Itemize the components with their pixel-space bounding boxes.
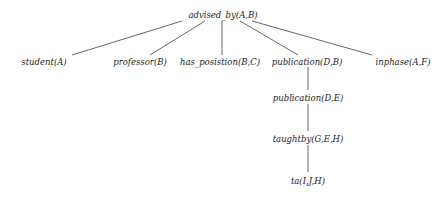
node-professor: professor(B) xyxy=(113,57,167,67)
node-inphase: inphase(A,F) xyxy=(376,57,431,67)
edge-root-student xyxy=(72,21,182,55)
edge-root-professor xyxy=(150,21,205,55)
node-has-posistion: has_posistion(B,C) xyxy=(180,57,260,68)
tree-diagram: advised_by(A,B) student(A) professor(B) … xyxy=(0,0,446,200)
node-publication-de: publication(D,E) xyxy=(273,93,343,103)
node-taughtby: taughtby(G,E,H) xyxy=(273,134,344,144)
edge-root-inphase xyxy=(252,21,372,55)
node-advised-by: advised_by(A,B) xyxy=(188,10,257,21)
node-student: student(A) xyxy=(21,57,66,67)
node-publication-db: publication(D,B) xyxy=(272,57,342,67)
node-ta: ta(I,J,H) xyxy=(291,176,325,186)
